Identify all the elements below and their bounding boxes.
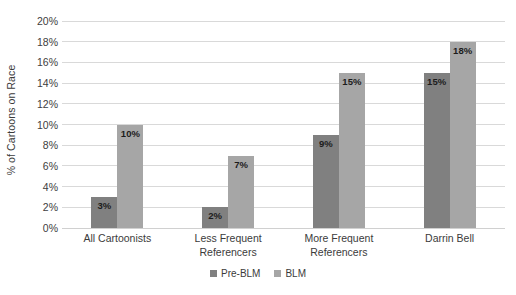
bar-value-label: 18% xyxy=(450,45,476,56)
bar-blm-3: 18% xyxy=(450,42,476,228)
category-label-line1: All Cartoonists xyxy=(84,232,152,244)
y-axis-tick-labels: 0%2%4%6%8%10%12%14%16%18%20% xyxy=(22,21,58,228)
legend-item-blm[interactable]: BLM xyxy=(274,268,306,279)
bar-value-label: 10% xyxy=(117,128,143,139)
bar-pre-blm-0: 3% xyxy=(91,197,117,228)
category-label-line2: Referencers xyxy=(173,245,284,259)
legend-item-pre-blm[interactable]: Pre-BLM xyxy=(210,268,260,279)
x-axis-category-label: More FrequentReferencers xyxy=(284,231,395,259)
legend-swatch-icon xyxy=(274,270,281,277)
y-axis-title: % of Cartoons on Race xyxy=(0,0,22,240)
legend-label: BLM xyxy=(285,268,306,279)
y-axis-tick-label: 10% xyxy=(37,119,58,131)
chart-legend: Pre-BLMBLM xyxy=(0,268,516,279)
bar-value-label: 9% xyxy=(313,138,339,149)
bars-layer: 3%10%2%7%9%15%15%18% xyxy=(62,21,505,228)
bar-pre-blm-2: 9% xyxy=(313,135,339,228)
category-label-line1: Darrin Bell xyxy=(425,232,474,244)
bar-blm-1: 7% xyxy=(228,156,254,228)
y-axis-title-text: % of Cartoons on Race xyxy=(5,65,17,176)
y-axis-tick-label: 14% xyxy=(37,77,58,89)
bar-pre-blm-1: 2% xyxy=(202,207,228,228)
bar-blm-2: 15% xyxy=(339,73,365,228)
category-label-line1: More Frequent xyxy=(304,232,373,244)
y-axis-tick-label: 16% xyxy=(37,56,58,68)
y-axis-tick-label: 20% xyxy=(37,15,58,27)
x-axis-category-label: All Cartoonists xyxy=(62,231,173,245)
bar-value-label: 15% xyxy=(339,76,365,87)
bar-blm-0: 10% xyxy=(117,125,143,229)
bar-value-label: 3% xyxy=(91,200,117,211)
legend-swatch-icon xyxy=(210,270,217,277)
y-axis-tick-label: 12% xyxy=(37,98,58,110)
x-axis-category-label: Darrin Bell xyxy=(394,231,505,245)
bar-pre-blm-3: 15% xyxy=(424,73,450,228)
y-axis-tick-label: 4% xyxy=(43,181,58,193)
legend-label: Pre-BLM xyxy=(221,268,260,279)
y-axis-tick-label: 2% xyxy=(43,201,58,213)
y-axis-tick-label: 8% xyxy=(43,139,58,151)
y-axis-tick-label: 0% xyxy=(43,222,58,234)
y-axis-tick-label: 6% xyxy=(43,160,58,172)
bar-chart: % of Cartoons on Race 0%2%4%6%8%10%12%14… xyxy=(0,0,516,295)
bar-value-label: 7% xyxy=(228,159,254,170)
x-axis-category-label: Less FrequentReferencers xyxy=(173,231,284,259)
category-label-line2: Referencers xyxy=(284,245,395,259)
bar-value-label: 15% xyxy=(424,76,450,87)
y-axis-tick-label: 18% xyxy=(37,36,58,48)
bar-value-label: 2% xyxy=(202,210,228,221)
category-label-line1: Less Frequent xyxy=(195,232,262,244)
x-axis-category-labels: All CartoonistsLess FrequentReferencersM… xyxy=(62,231,505,271)
